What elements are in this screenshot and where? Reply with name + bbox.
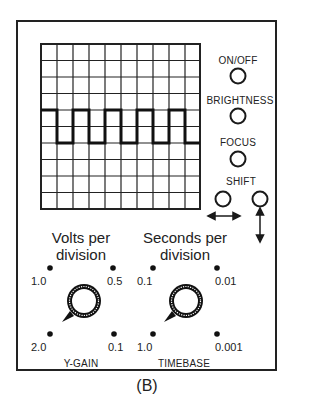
vertical-arrow-icon: [257, 208, 264, 242]
y-gain-title-line1: Volts per: [52, 229, 110, 246]
timebase-title: Seconds per division: [143, 229, 227, 263]
y-gain-value-2: 0.5: [107, 275, 122, 287]
timebase-label: TIMEBASE: [158, 358, 210, 369]
focus-knob[interactable]: [229, 150, 247, 168]
shift-label: SHIFT: [226, 176, 256, 187]
timebase-value-2: 0.01: [215, 275, 236, 287]
figure-caption: (B): [136, 377, 157, 395]
timebase-value-3: 1.0: [137, 341, 152, 353]
y-gain-value-4: 0.1: [108, 341, 123, 353]
shift-vertical-knob[interactable]: [251, 190, 269, 208]
brightness-knob[interactable]: [229, 107, 247, 125]
y-gain-title-line2: division: [52, 246, 110, 263]
timebase-value-4: 0.001: [215, 341, 243, 353]
timebase-knob[interactable]: [168, 283, 204, 319]
timebase-title-line1: Seconds per: [143, 229, 227, 246]
y-gain-value-3: 2.0: [31, 341, 46, 353]
timebase-value-1: 0.1: [137, 275, 152, 287]
focus-label: FOCUS: [220, 137, 256, 148]
horizontal-arrow-icon: [208, 213, 240, 220]
on-off-knob[interactable]: [229, 67, 247, 85]
y-gain-title: Volts per division: [52, 229, 110, 263]
shift-horizontal-knob[interactable]: [214, 190, 232, 208]
y-gain-value-1: 1.0: [31, 275, 46, 287]
y-gain-label: Y-GAIN: [64, 358, 99, 369]
brightness-label: BRIGHTNESS: [206, 95, 273, 106]
on-off-label: ON/OFF: [219, 55, 258, 66]
timebase-title-line2: division: [143, 246, 227, 263]
y-gain-knob[interactable]: [66, 283, 102, 319]
